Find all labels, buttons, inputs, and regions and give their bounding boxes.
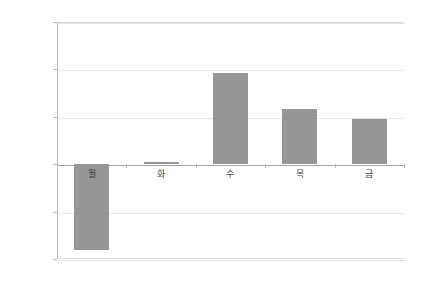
gridline [58, 70, 405, 71]
zero-axis-line [58, 165, 405, 166]
x-axis-category-label-4: 금 [335, 169, 404, 180]
y-axis-tick-mark [53, 212, 57, 213]
y-axis-tick-mark [53, 117, 57, 118]
bar-1[interactable] [144, 162, 179, 164]
x-axis-tick-mark [335, 164, 336, 168]
bar-chart: 0.150%0.100%0.050%0.00%-0.050%-0.100%월화수… [0, 0, 424, 282]
x-axis-tick-mark [196, 164, 197, 168]
bar-4[interactable] [352, 119, 387, 165]
x-axis-tick-mark [265, 164, 266, 168]
x-axis-tick-mark [57, 164, 58, 168]
y-axis-tick-mark [53, 259, 57, 260]
x-axis-category-label-2: 수 [196, 169, 265, 180]
x-axis-category-label-0: 월 [57, 169, 126, 180]
bar-2[interactable] [213, 73, 248, 164]
x-axis-tick-mark [404, 164, 405, 168]
bar-3[interactable] [282, 109, 317, 164]
x-axis-category-label-3: 목 [265, 169, 334, 180]
gridline [58, 260, 405, 261]
x-axis-category-label-1: 화 [126, 169, 195, 180]
x-axis-tick-mark [126, 164, 127, 168]
y-axis-tick-mark [53, 22, 57, 23]
y-axis-tick-mark [53, 69, 57, 70]
gridline [58, 23, 405, 24]
gridline [58, 213, 405, 214]
